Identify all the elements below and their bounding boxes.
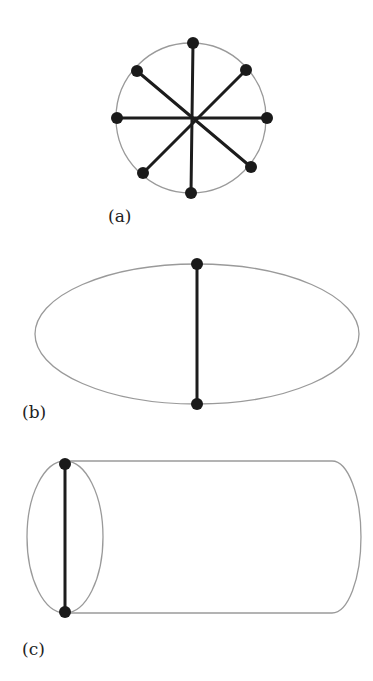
edge [143, 70, 246, 173]
figure-label-b: (b) [22, 402, 46, 422]
node-dot [59, 606, 71, 618]
figure-label-c: (c) [22, 639, 45, 659]
node-dot [245, 161, 257, 173]
node-dot [137, 167, 149, 179]
node-dot [187, 37, 199, 49]
node-dot [191, 398, 203, 410]
node-dot [131, 65, 143, 77]
node-dot [185, 187, 197, 199]
node-dot [240, 64, 252, 76]
figure-c-cylinder-graph: (c) [22, 458, 361, 659]
figure-b-ellipse-graph: (b) [22, 258, 359, 422]
node-dot [59, 458, 71, 470]
node-dot [191, 258, 203, 270]
node-dot [111, 112, 123, 124]
figure-label-a: (a) [108, 206, 131, 226]
node-dot [261, 112, 273, 124]
cylinder-body-outline [65, 461, 361, 613]
figure-a-circle-graph: (a) [108, 37, 273, 226]
diagram-canvas: (a) (b) (c) [0, 0, 373, 681]
